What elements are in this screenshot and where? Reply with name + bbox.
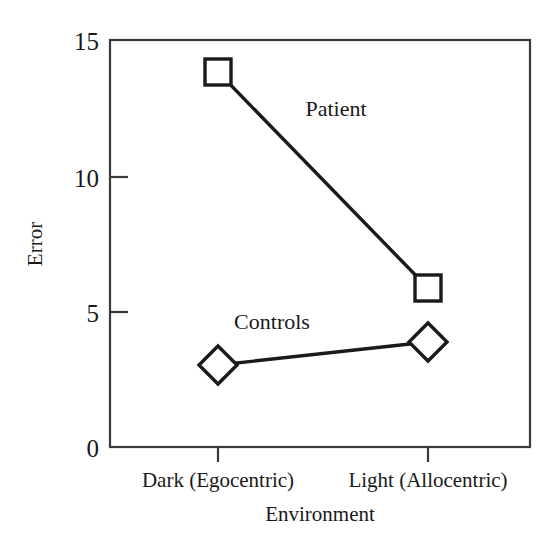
chart-page: 15 10 5 0 Error Dark (Egocentric) Light … [0, 0, 556, 541]
data-point-controls-dark [199, 346, 237, 384]
y-tick-label-15: 15 [74, 28, 99, 55]
y-tick-label-10: 10 [74, 165, 99, 192]
x-category-label-light: Light (Allocentric) [348, 468, 507, 492]
series-line-controls [218, 342, 428, 365]
series-label-patient: Patient [305, 96, 366, 121]
y-tick-label-5: 5 [87, 300, 100, 327]
x-axis-title: Environment [265, 502, 375, 526]
data-point-patient-dark [205, 59, 231, 85]
y-tick-label-0: 0 [87, 435, 100, 462]
x-category-label-dark: Dark (Egocentric) [142, 468, 294, 492]
line-chart: 15 10 5 0 Error Dark (Egocentric) Light … [0, 0, 556, 541]
data-point-patient-light [415, 275, 441, 301]
series-label-controls: Controls [234, 309, 310, 334]
data-point-controls-light [409, 323, 447, 361]
y-axis-title: Error [23, 222, 47, 266]
